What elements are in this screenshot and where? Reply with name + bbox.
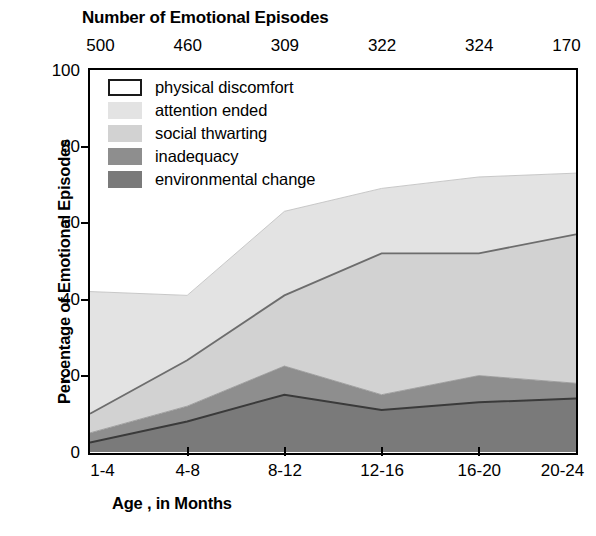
y-tick-label: 100 — [34, 61, 80, 81]
top-tick-label: 460 — [174, 36, 202, 56]
x-axis-title: Age , in Months — [112, 494, 232, 513]
chart-figure: Number of Emotional Episodes 50046030932… — [0, 0, 596, 536]
x-tick-label: 12-16 — [360, 461, 403, 481]
legend-item: inadequacy — [108, 145, 368, 168]
legend-item-label: inadequacy — [155, 147, 238, 166]
top-axis-ticklabels: 500460309322324170 — [88, 36, 578, 58]
legend-swatch-light — [108, 125, 142, 142]
top-tick-label: 500 — [86, 36, 114, 56]
x-tick-label: 16-20 — [458, 461, 501, 481]
legend-item: attention ended — [108, 99, 368, 122]
legend-item: physical discomfort — [108, 76, 368, 99]
x-tick-mark — [284, 447, 286, 456]
legend-swatch-dark — [108, 171, 142, 188]
legend-item: environmental change — [108, 168, 368, 191]
x-tick-label: 1-4 — [90, 461, 115, 481]
chart-legend: physical discomfortattention endedsocial… — [108, 76, 368, 191]
legend-swatch-white — [108, 79, 142, 96]
top-tick-label: 322 — [368, 36, 396, 56]
y-tick-label: 80 — [34, 137, 80, 157]
legend-swatch-lightest — [108, 102, 142, 119]
x-axis-ticklabels: 1-44-88-1212-1616-2020-24 — [88, 461, 578, 485]
x-tick-mark — [187, 447, 189, 456]
legend-item: social thwarting — [108, 122, 368, 145]
y-axis-ticklabels: 020406080100 — [28, 0, 80, 536]
y-tick-mark — [81, 146, 90, 148]
x-tick-label: 20-24 — [541, 461, 584, 481]
legend-item-label: physical discomfort — [155, 78, 293, 97]
legend-swatch-medium — [108, 148, 142, 165]
top-tick-label: 170 — [552, 36, 580, 56]
top-tick-label: 309 — [271, 36, 299, 56]
y-tick-label: 40 — [34, 290, 80, 310]
legend-item-label: attention ended — [155, 101, 267, 120]
y-tick-label: 20 — [34, 366, 80, 386]
y-tick-mark — [81, 299, 90, 301]
x-tick-mark — [478, 447, 480, 456]
legend-item-label: social thwarting — [155, 124, 267, 143]
x-tick-label: 8-12 — [268, 461, 302, 481]
y-tick-label: 0 — [34, 443, 80, 463]
top-axis-title: Number of Emotional Episodes — [82, 8, 329, 28]
x-tick-mark — [381, 447, 383, 456]
top-tick-label: 324 — [465, 36, 493, 56]
y-tick-mark — [81, 375, 90, 377]
x-tick-label: 4-8 — [175, 461, 200, 481]
y-tick-label: 60 — [34, 213, 80, 233]
y-tick-mark — [81, 222, 90, 224]
legend-item-label: environmental change — [155, 170, 315, 189]
